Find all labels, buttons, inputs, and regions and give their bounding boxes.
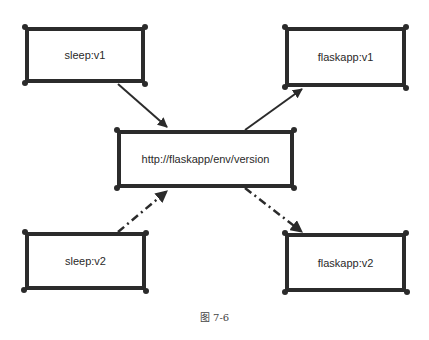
figure-caption: 图 7-6 [0, 309, 429, 324]
edge-sleep-v2-to-center [118, 191, 167, 232]
node-flaskapp-v1: flaskapp:v1 [285, 27, 406, 87]
node-label: http://flaskapp/env/version [142, 153, 270, 165]
node-label: flaskapp:v2 [318, 257, 374, 269]
node-label: sleep:v1 [65, 49, 106, 61]
node-flaskapp-v2: flaskapp:v2 [285, 233, 406, 292]
node-label: flaskapp:v1 [318, 51, 374, 63]
node-center-url: http://flaskapp/env/version [117, 130, 294, 188]
edge-center-to-flaskapp-v1 [245, 89, 302, 130]
node-label: sleep:v2 [65, 255, 106, 267]
node-sleep-v2: sleep:v2 [25, 232, 146, 290]
edge-sleep-v1-to-center [118, 84, 167, 127]
node-sleep-v1: sleep:v1 [25, 27, 145, 83]
edge-center-to-flaskapp-v2 [245, 188, 302, 232]
